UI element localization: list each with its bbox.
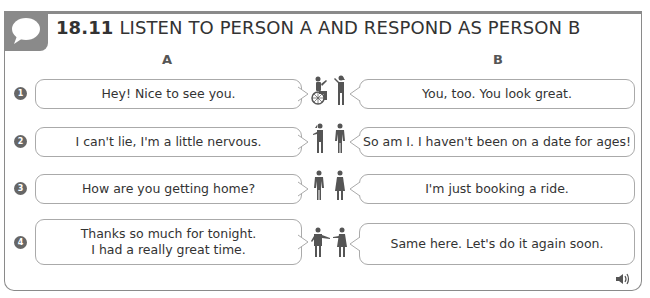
bubble-tail-icon bbox=[298, 181, 310, 197]
row-number-1: 1 bbox=[14, 87, 27, 100]
man-and-woman-icon bbox=[310, 169, 350, 203]
bubble-b-2: So am I. I haven't been on a date for ag… bbox=[359, 127, 635, 157]
bubble-a-4: Thanks so much for tonight. I had a real… bbox=[35, 219, 302, 265]
bubble-b-3: I'm just booking a ride. bbox=[359, 174, 635, 204]
bubble-b-text: You, too. You look great. bbox=[422, 86, 572, 102]
bubble-b-text: I'm just booking a ride. bbox=[425, 181, 569, 197]
speaker-icon[interactable] bbox=[615, 272, 633, 286]
row-number-4: 4 bbox=[14, 236, 27, 249]
row-number-2: 2 bbox=[14, 135, 27, 148]
bubble-tail-icon bbox=[298, 134, 310, 150]
bubble-b-text: Same here. Let's do it again soon. bbox=[390, 236, 603, 252]
bubble-b-1: You, too. You look great. bbox=[359, 79, 635, 109]
woman-and-man-icon bbox=[310, 122, 350, 156]
bubble-a-text-line1: Thanks so much for tonight. bbox=[81, 226, 257, 242]
exercise-title: 18.11LISTEN TO PERSON A AND RESPOND AS P… bbox=[56, 17, 580, 38]
bubble-b-text: So am I. I haven't been on a date for ag… bbox=[363, 134, 631, 150]
column-a-header: A bbox=[162, 52, 172, 67]
exercise-number: 18.11 bbox=[56, 17, 113, 38]
bubble-a-text: I can't lie, I'm a little nervous. bbox=[75, 134, 261, 150]
exercise-badge bbox=[4, 11, 48, 51]
speech-bubble-icon bbox=[11, 17, 41, 45]
bubble-a-1: Hey! Nice to see you. bbox=[35, 79, 302, 109]
bubble-tail-icon bbox=[298, 234, 310, 250]
row-number-3: 3 bbox=[14, 182, 27, 195]
bubble-a-text: Hey! Nice to see you. bbox=[101, 86, 235, 102]
bubble-tail-icon bbox=[349, 134, 361, 150]
bubble-tail-icon bbox=[349, 86, 361, 102]
bubble-a-text-line2: I had a really great time. bbox=[91, 242, 246, 258]
bubble-a-text: How are you getting home? bbox=[82, 181, 255, 197]
bubble-b-4: Same here. Let's do it again soon. bbox=[359, 223, 635, 265]
bubble-tail-icon bbox=[349, 181, 361, 197]
bubble-a-2: I can't lie, I'm a little nervous. bbox=[35, 127, 302, 157]
man-and-woman-gesturing-icon bbox=[310, 226, 354, 260]
column-b-header: B bbox=[493, 52, 503, 67]
wheelchair-user-and-woman-icon bbox=[310, 74, 350, 108]
exercise-heading: LISTEN TO PERSON A AND RESPOND AS PERSON… bbox=[119, 17, 580, 38]
bubble-a-3: How are you getting home? bbox=[35, 174, 302, 204]
bubble-tail-icon bbox=[298, 86, 310, 102]
